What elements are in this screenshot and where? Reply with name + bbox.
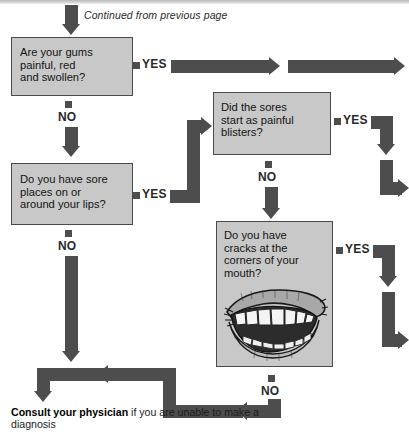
yes-label-cracks: YES — [345, 242, 370, 256]
yes-arrow-gums-head-a — [269, 57, 280, 75]
yes-bullet-lips — [133, 192, 140, 199]
no-bullet-lips — [65, 230, 72, 237]
flowchart-page: Continued from previous page Are your gu… — [0, 0, 409, 435]
continued-caption: Continued from previous page — [84, 9, 227, 21]
yes-arrow-cracks-head2 — [398, 331, 409, 349]
question-text-gums: Are your gums painful, red and swollen? — [20, 46, 130, 84]
question-text-lips: Do you have sore places on or around you… — [20, 173, 132, 211]
yes-arrow-gums-head-b — [394, 57, 405, 75]
no-label-blisters: NO — [258, 170, 276, 184]
yes-arrow-cracks-head — [379, 276, 397, 287]
yes-bullet-gums — [133, 62, 140, 69]
no-label-cracks: NO — [261, 384, 279, 398]
smiling-mouth-icon — [221, 284, 329, 362]
yes-arrow-blisters-head — [377, 144, 395, 155]
yes-label-lips: YES — [142, 187, 167, 201]
final-merge-head — [34, 391, 52, 402]
entry-arrow-head — [62, 24, 80, 35]
page-top-rule — [0, 0, 409, 4]
bottom-connector-horiz-high — [108, 368, 176, 381]
question-text-blisters: Did the sores start as painful blisters? — [221, 101, 329, 139]
yes-arrow-lips-top — [187, 120, 202, 133]
no-arrow-lips-shaft — [65, 256, 78, 352]
no-arrow-gums-head — [62, 146, 80, 157]
yes-arrow-blisters-head2 — [398, 179, 409, 197]
yes-arrow-cracks-vert — [382, 245, 395, 277]
no-arrow-lips-head — [62, 351, 80, 362]
question-text-cracks: Do you have cracks at the corners of you… — [224, 229, 330, 279]
no-arrow-gums-shaft — [65, 127, 78, 147]
final-merge-vert — [37, 368, 50, 392]
yes-arrow-gums-shaft-a — [171, 60, 270, 73]
advice-text: Consult your physician if you are unable… — [11, 406, 261, 431]
yes-label-gums: YES — [142, 57, 167, 71]
yes-label-blisters: YES — [343, 113, 368, 127]
no-bullet-blisters — [265, 161, 272, 168]
yes-arrow-lips-head — [201, 117, 212, 135]
no-arrow-blisters-shaft — [265, 187, 278, 209]
advice-bold: Consult your physician — [11, 406, 128, 418]
yes-bullet-cracks — [336, 247, 343, 254]
yes-bullet-blisters — [334, 118, 341, 125]
no-label-gums: NO — [58, 110, 76, 124]
no-label-lips: NO — [58, 239, 76, 253]
no-bullet-cracks — [268, 375, 275, 382]
no-bullet-gums — [65, 101, 72, 108]
yes-arrow-gums-shaft-b — [288, 60, 395, 73]
no-arrow-blisters-head — [262, 208, 280, 219]
entry-arrow-shaft — [65, 5, 78, 25]
yes-arrow-blisters-vert — [380, 116, 393, 145]
